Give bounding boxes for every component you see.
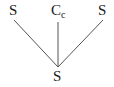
child-node-right: S xyxy=(98,3,106,18)
edge-left xyxy=(14,20,58,67)
child-node-left: S xyxy=(9,3,17,18)
root-node: S xyxy=(53,69,61,84)
child-node-middle: Cc xyxy=(51,3,65,22)
edge-right xyxy=(58,20,103,67)
subscript: c xyxy=(61,9,65,20)
